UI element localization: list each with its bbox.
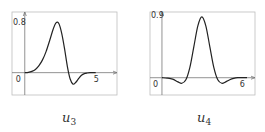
x-tick-label: 6 xyxy=(240,80,245,89)
plot-u3: 050.8u3 xyxy=(12,12,117,127)
caption-subscript: 3 xyxy=(70,117,76,127)
plot-u4: 060.9u4 xyxy=(150,11,255,127)
x-tick-label: 0 xyxy=(16,75,21,84)
series-line-u4 xyxy=(162,17,247,83)
series-line-u3 xyxy=(25,22,96,84)
plot-frame xyxy=(12,12,117,95)
x-tick-label: 5 xyxy=(94,75,99,84)
caption-subscript: 4 xyxy=(205,117,211,127)
y-tick-label: 0.8 xyxy=(13,18,26,27)
caption-u3: u3 xyxy=(62,110,76,127)
y-tick-label: 0.9 xyxy=(151,11,164,20)
x-tick-label: 0 xyxy=(153,80,158,89)
caption-u4: u4 xyxy=(197,110,211,127)
figure: 050.8u3060.9u4 xyxy=(0,0,265,132)
